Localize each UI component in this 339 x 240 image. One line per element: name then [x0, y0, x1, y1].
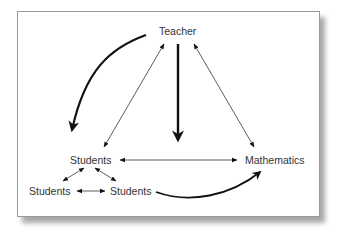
node-mathematics: Mathematics	[245, 154, 305, 166]
node-students-right: Students	[110, 185, 151, 197]
arrow-teacher-to-students-curved	[72, 35, 146, 130]
arrow-students-to-mathematics-curved	[156, 172, 260, 198]
node-students-left: Students	[29, 185, 70, 197]
arrow-teacher-mathematics	[194, 44, 254, 147]
arrow-students-left	[63, 168, 84, 181]
arrow-teacher-students	[104, 44, 164, 147]
node-students-main: Students	[70, 154, 111, 166]
arrow-students-right	[95, 168, 116, 181]
node-teacher: Teacher	[159, 25, 196, 37]
